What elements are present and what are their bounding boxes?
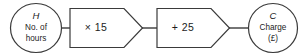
input-description-line1: No. of bbox=[25, 23, 48, 32]
input-variable-label: H bbox=[33, 10, 40, 21]
output-description-line1: Charge bbox=[260, 23, 287, 32]
operation-2-label: + 25 bbox=[172, 21, 194, 33]
operation-1-label: × 15 bbox=[85, 21, 107, 33]
function-machine-diagram: H No. of hours × 15 + 25 C Charge (£) bbox=[0, 0, 301, 56]
output-variable-label: C bbox=[270, 10, 277, 21]
input-description-line2: hours bbox=[26, 34, 46, 43]
output-description-line2: (£) bbox=[268, 34, 278, 43]
diagram-canvas: H No. of hours × 15 + 25 C Charge (£) bbox=[0, 0, 301, 56]
